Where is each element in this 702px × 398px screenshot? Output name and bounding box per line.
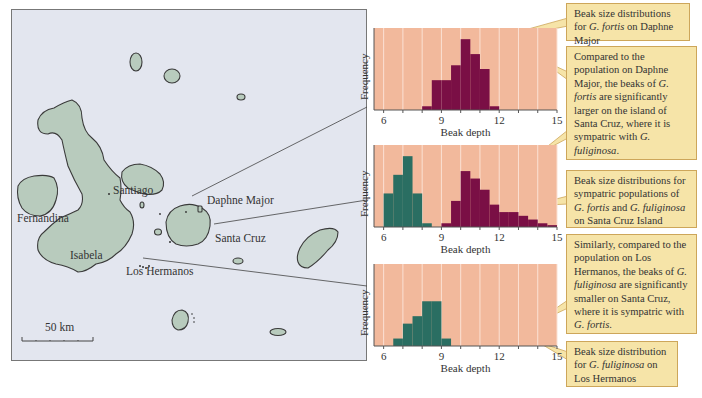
island-east [297, 228, 338, 268]
label-fernandina: Fernandina [17, 212, 69, 224]
island-fernandina [18, 175, 58, 216]
island-daphne-major [198, 206, 202, 212]
x-tick-label: 15 [552, 231, 563, 243]
x-tick-label: 9 [439, 350, 445, 362]
label-los-hermanos: Los Hermanos [126, 265, 193, 277]
x-tick-label: 12 [494, 231, 505, 243]
map-islands [12, 10, 368, 362]
scale-bar-label: 50 km [45, 321, 74, 333]
label-daphne-major: Daphne Major [207, 194, 274, 206]
y-axis-label: Frequency [358, 54, 370, 100]
galapagos-map: Santiago Fernandina Isabela Daphne Major… [11, 9, 367, 361]
x-tick-label: 12 [494, 114, 505, 126]
island-south-1 [172, 310, 188, 330]
histogram-2: 691215Beak depthFrequency [352, 137, 572, 257]
x-tick-label: 6 [381, 350, 387, 362]
label-santa-cruz: Santa Cruz [215, 232, 266, 244]
x-tick-label: 15 [552, 350, 563, 362]
x-tick-label: 9 [439, 231, 445, 243]
label-isabela: Isabela [70, 249, 103, 261]
y-axis-label: Frequency [358, 171, 370, 217]
label-santiago: Santiago [113, 184, 153, 196]
island-small-c [233, 258, 243, 264]
x-tick-label: 6 [381, 114, 387, 126]
x-axis-label: Beak depth [441, 243, 491, 255]
x-tick-label: 15 [552, 114, 563, 126]
island-small-a [140, 202, 144, 208]
histogram-3: 691215Beak depthFrequency [352, 256, 572, 376]
island-santa-cruz [166, 204, 210, 246]
island-north-2 [164, 69, 180, 83]
island-small-b [155, 229, 162, 235]
scale-bar [22, 337, 93, 341]
y-axis-label: Frequency [358, 290, 370, 336]
callout-los-hermanos: Beak size distribution for G. fuliginosa… [566, 341, 678, 387]
x-axis-label: Beak depth [441, 362, 491, 374]
island-north-1 [130, 53, 142, 71]
x-tick-label: 9 [439, 114, 445, 126]
x-tick-label: 6 [381, 231, 387, 243]
callout-daphne-fortis: Beak size distributions for G. fortis on… [566, 3, 690, 41]
histogram-1: 691215Beak depthFrequency [352, 20, 572, 140]
callout-fortis-comparison: Compared to the population on Daphne Maj… [566, 46, 697, 160]
callout-fuliginosa-comparison: Similarly, compared to the population on… [566, 234, 697, 334]
x-tick-label: 12 [494, 350, 505, 362]
callout-santa-cruz-sympatric: Beak size distributions for sympatric po… [566, 170, 697, 228]
island-north-3 [237, 94, 245, 100]
island-south-2 [270, 329, 286, 336]
